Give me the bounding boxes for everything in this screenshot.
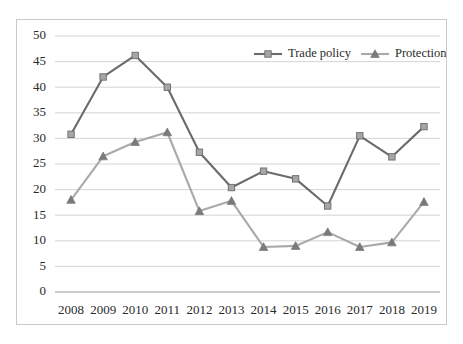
data-point-marker <box>228 184 234 190</box>
data-point-marker <box>196 149 202 155</box>
data-point-marker <box>260 168 266 174</box>
x-axis-tick-labels: 2008200920102011201220132014201520162017… <box>58 302 437 317</box>
x-axis-tick-label: 2017 <box>347 302 374 317</box>
x-axis-tick-label: 2016 <box>315 302 342 317</box>
x-axis-tick-label: 2011 <box>155 302 181 317</box>
y-axis-tick-label: 50 <box>33 27 46 42</box>
data-point-marker <box>100 74 106 80</box>
y-axis-tick-labels: 05101520253035404550 <box>33 27 46 298</box>
y-axis-tick-label: 30 <box>33 130 46 145</box>
data-point-marker <box>164 84 170 90</box>
data-point-marker <box>227 197 236 205</box>
data-point-marker <box>323 228 332 236</box>
x-axis-tick-label: 2013 <box>218 302 244 317</box>
x-axis-tick-label: 2008 <box>58 302 84 317</box>
line-chart-plot: 05101520253035404550 2008200920102011201… <box>17 20 446 324</box>
y-axis-tick-label: 5 <box>40 258 47 273</box>
data-point-marker <box>421 123 427 129</box>
chart-legend: Trade policyProtectionism <box>254 46 446 60</box>
data-point-marker <box>420 198 429 206</box>
data-point-marker <box>68 131 74 137</box>
data-point-marker <box>357 133 363 139</box>
y-axis-tick-label: 15 <box>33 207 46 222</box>
legend-marker-swatch <box>265 51 271 57</box>
x-axis-tick-label: 2009 <box>90 302 116 317</box>
x-axis-tick-label: 2019 <box>411 302 437 317</box>
y-axis-tick-label: 40 <box>33 79 46 94</box>
x-axis-tick-label: 2010 <box>122 302 148 317</box>
y-axis-tick-label: 45 <box>33 53 46 68</box>
y-axis-tick-label: 25 <box>33 155 46 170</box>
y-axis-tick-label: 0 <box>40 283 47 298</box>
data-point-marker <box>163 128 172 136</box>
chart-container: 05101520253035404550 2008200920102011201… <box>16 19 447 325</box>
y-axis-tick-label: 20 <box>33 181 46 196</box>
data-point-marker <box>292 176 298 182</box>
gridlines-group <box>55 36 440 292</box>
x-axis-tick-label: 2018 <box>379 302 405 317</box>
y-axis-tick-label: 35 <box>33 104 46 119</box>
series-line-trade-policy <box>71 55 424 206</box>
x-axis-tick-label: 2015 <box>283 302 309 317</box>
data-point-marker <box>325 203 331 209</box>
x-axis-tick-label: 2012 <box>186 302 212 317</box>
legend-label: Trade policy <box>288 46 352 60</box>
legend-label: Protectionism <box>395 46 446 60</box>
data-series-group <box>67 52 429 250</box>
data-point-marker <box>389 154 395 160</box>
data-point-marker <box>132 52 138 58</box>
y-axis-tick-label: 10 <box>33 232 46 247</box>
x-axis-tick-label: 2014 <box>251 302 278 317</box>
